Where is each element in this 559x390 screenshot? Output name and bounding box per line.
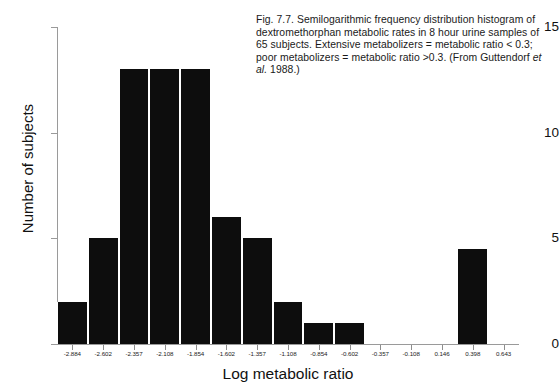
bar [180, 69, 211, 344]
x-tick-label-5: -1.602 [210, 350, 242, 357]
x-tick-label-10: -0.357 [364, 350, 396, 357]
bar [88, 238, 119, 344]
x-tick-label-13: 0.398 [457, 350, 489, 357]
bar [303, 323, 334, 344]
x-tick-label-12: 0.146 [426, 350, 458, 357]
x-tick-label-4: -1.854 [180, 350, 212, 357]
bar [57, 302, 88, 344]
y-tick-0 [51, 344, 57, 345]
bar [211, 217, 242, 344]
x-tick-label-11: -0.108 [395, 350, 427, 357]
x-tick-label-9: -0.602 [334, 350, 366, 357]
bar [119, 69, 150, 344]
x-tick-label-8: -0.854 [303, 350, 335, 357]
y-tick-label-5: 5 [513, 231, 559, 245]
x-tick-label-7: -1.108 [272, 350, 304, 357]
x-tick-label-14: 0.643 [488, 350, 520, 357]
bar [149, 69, 180, 344]
x-tick-label-3: -2.108 [149, 350, 181, 357]
x-axis-title: Log metabolic ratio [57, 365, 519, 383]
bar [242, 238, 273, 344]
y-axis-title: Number of subjects [19, 39, 36, 299]
x-tick-label-1: -2.602 [87, 350, 119, 357]
y-tick-label-0: 0 [513, 337, 559, 351]
x-tick-label-6: -1.357 [241, 350, 273, 357]
x-tick-label-0: -2.884 [56, 350, 88, 357]
bar [334, 323, 365, 344]
bars-container [57, 27, 519, 344]
bar [273, 302, 304, 344]
y-tick-label-10: 10 [513, 126, 559, 140]
bar [457, 249, 488, 344]
y-tick-label-15: 15 [513, 20, 559, 34]
x-tick-label-2: -2.357 [118, 350, 150, 357]
